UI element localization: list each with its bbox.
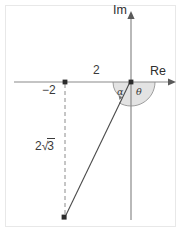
argand-diagram-figure: Im Re 2 −2 2√3 α θ <box>0 0 183 237</box>
complex-number-vector <box>66 82 130 215</box>
point-marker-origin <box>129 80 134 85</box>
imaginary-axis-label: Im <box>113 4 127 17</box>
negative-two-label: −2 <box>42 84 56 96</box>
real-axis-arrowhead-icon <box>168 79 176 86</box>
imaginary-axis-arrowhead-icon <box>127 11 134 19</box>
real-distance-label: 2 <box>93 64 100 76</box>
angle-alpha-label: α <box>117 87 123 97</box>
point-marker-complex-number <box>62 215 67 220</box>
imaginary-magnitude-coefficient: 2 <box>35 139 42 153</box>
point-marker-minus-two <box>63 80 68 85</box>
angle-theta-label: θ <box>136 87 142 97</box>
imaginary-magnitude-radicand: 3 <box>47 138 55 153</box>
real-axis-label: Re <box>150 65 166 78</box>
plot-canvas <box>0 0 183 237</box>
imaginary-distance-label: 2√3 <box>35 140 55 152</box>
